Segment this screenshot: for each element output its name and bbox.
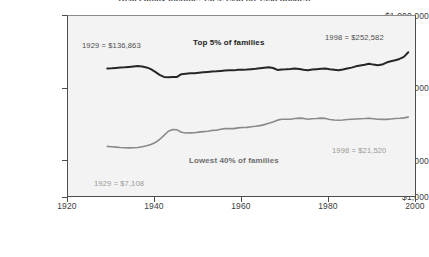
chart-title: Real Family Income, 1929-1998 (in 1998 d… xyxy=(0,0,429,1)
annotation-bottom-series-end: 1998 = $21,520 xyxy=(332,146,386,155)
series-label-lowest-40-percent: Lowest 40% of families xyxy=(189,156,279,165)
chart-container: Real Family Income, 1929-1998 (in 1998 d… xyxy=(0,0,429,257)
x-axis-tick-label-1920: 1920 xyxy=(37,201,97,211)
annotation-top-series-end: 1998 = $252,582 xyxy=(325,33,384,42)
x-axis-tick-label-1960: 1960 xyxy=(211,201,271,211)
plot-area: 1929 = $136,863 Top 5% of families 1998 … xyxy=(67,15,416,197)
x-axis-tick-label-1940: 1940 xyxy=(124,201,184,211)
annotation-bottom-series-start: 1929 = $7,108 xyxy=(94,179,144,188)
line-lowest-40-percent xyxy=(107,117,408,148)
x-axis-tick-label-1980: 1980 xyxy=(298,201,358,211)
series-label-top-5-percent: Top 5% of families xyxy=(193,38,264,47)
line-top-5-percent xyxy=(107,52,408,77)
x-axis-tick-label-2000: 2000 xyxy=(385,201,429,211)
annotation-top-series-start: 1929 = $136,863 xyxy=(82,41,141,50)
